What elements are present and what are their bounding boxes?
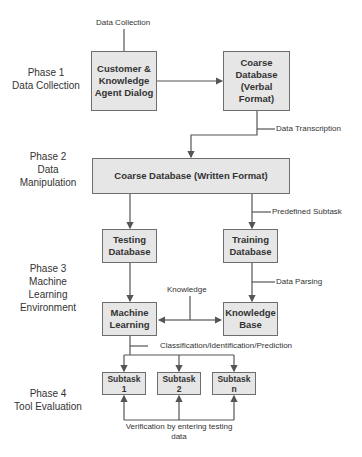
phase-1-label: Phase 1 Data Collection xyxy=(0,66,92,92)
training-database-text: Training Database xyxy=(229,234,271,258)
subtask-2-text: Subtask 2 xyxy=(162,374,195,394)
knowledge-base-box: Knowledge Base xyxy=(223,302,278,336)
phase-2-label: Phase 2 Data Manipulation xyxy=(8,150,88,189)
phase-3-label: Phase 3 Machine Learning Environment xyxy=(8,262,88,314)
training-database-box: Training Database xyxy=(223,229,278,263)
coarse-database-written-box: Coarse Database (Written Format) xyxy=(92,158,290,194)
machine-learning-text: Machine Learning xyxy=(109,307,149,331)
phase-4-label: Phase 4 Tool Evaluation xyxy=(8,387,88,413)
classification-label: Classification/Identification/Prediction xyxy=(160,341,292,351)
subtask-n-box: Subtask n xyxy=(212,372,256,395)
data-parsing-label: Data Parsing xyxy=(276,277,322,287)
customer-agent-dialog-text: Customer & Knowledge Agent Dialog xyxy=(95,63,154,99)
subtask-n-text: Subtask n xyxy=(217,374,250,394)
coarse-database-verbal-text: Coarse Database (Verbal Format) xyxy=(235,57,277,105)
customer-agent-dialog-box: Customer & Knowledge Agent Dialog xyxy=(91,51,157,111)
data-collection-label: Data Collection xyxy=(96,18,150,28)
knowledge-base-text: Knowledge Base xyxy=(225,307,276,331)
predefined-subtask-label: Predefined Subtask xyxy=(272,207,342,217)
testing-database-box: Testing Database xyxy=(102,229,157,263)
coarse-database-verbal-box: Coarse Database (Verbal Format) xyxy=(223,51,290,111)
subtask-1-box: Subtask 1 xyxy=(102,372,146,395)
subtask-2-box: Subtask 2 xyxy=(157,372,201,395)
testing-database-text: Testing Database xyxy=(108,234,150,258)
verification-label: Verification by entering testing data xyxy=(118,422,240,442)
subtask-1-text: Subtask 1 xyxy=(107,374,140,394)
coarse-database-written-text: Coarse Database (Written Format) xyxy=(114,170,267,182)
data-transcription-label: Data Transcription xyxy=(276,124,341,134)
machine-learning-box: Machine Learning xyxy=(102,302,157,336)
knowledge-label: Knowledge xyxy=(167,285,207,295)
